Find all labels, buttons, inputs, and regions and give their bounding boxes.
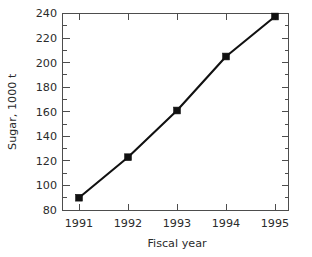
x-tick-label: 1995: [261, 217, 289, 230]
data-point-1991: [76, 194, 83, 201]
y-tick-label: 240: [36, 7, 57, 20]
y-tick-label: 180: [36, 81, 57, 94]
series-markers-sugar: [76, 13, 279, 201]
data-point-1993: [174, 107, 181, 114]
x-tick-label: 1994: [212, 217, 240, 230]
y-tick-label: 220: [36, 32, 57, 45]
y-tick-label: 160: [36, 106, 57, 119]
x-tick-label: 1993: [163, 217, 191, 230]
y-axis-title: Sugar, 1000 t: [6, 73, 19, 150]
y-axis-right-ticks: [282, 26, 289, 198]
x-axis-top-ticks: [79, 14, 275, 21]
chart-container: 80 100 120 140 160 180 200 220 240 1991 …: [0, 0, 312, 257]
y-tick-label: 200: [36, 57, 57, 70]
y-tick-label: 140: [36, 130, 57, 143]
data-point-1994: [223, 53, 230, 60]
y-tick-label: 80: [43, 204, 57, 217]
x-tick-label: 1991: [65, 217, 93, 230]
y-axis-major-ticks: [63, 14, 70, 211]
x-tick-label: 1992: [114, 217, 142, 230]
data-point-1992: [125, 154, 132, 161]
y-tick-label: 100: [36, 179, 57, 192]
x-axis-bottom-ticks: [79, 204, 275, 211]
y-tick-label: 120: [36, 155, 57, 168]
line-chart: 80 100 120 140 160 180 200 220 240 1991 …: [0, 0, 312, 257]
x-axis-title: Fiscal year: [147, 237, 207, 250]
data-point-1995: [272, 13, 279, 20]
